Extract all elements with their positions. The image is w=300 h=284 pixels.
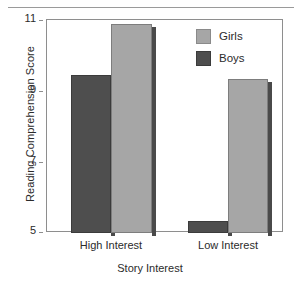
y-tick-label-5: 5 <box>0 224 36 236</box>
y-axis-title: Reading Comprehension Score <box>24 14 36 234</box>
y-tick-label-9: 9 <box>0 83 36 95</box>
boys-swatch-icon <box>196 51 211 66</box>
y-tick-label-11: 11 <box>0 12 36 24</box>
bar-high-interest-boys <box>71 75 111 233</box>
x-tick-label-low-interest: Low Interest <box>198 239 258 251</box>
y-tick-mark-5 <box>39 232 43 233</box>
legend-label-girls: Girls <box>219 29 243 44</box>
y-tick-mark-9 <box>39 91 43 92</box>
plot-area: 11 9 7 5 <box>46 19 283 232</box>
bar-body <box>228 79 268 233</box>
top-horizontal-rule <box>8 7 294 8</box>
bar-shadow <box>268 82 272 236</box>
bar-body <box>111 24 152 233</box>
legend-item-girls: Girls <box>196 29 278 44</box>
x-axis-title: Story Interest <box>0 262 300 274</box>
bar-shadow <box>152 27 156 236</box>
girls-swatch-icon <box>196 29 211 44</box>
legend-item-boys: Boys <box>196 51 278 66</box>
bar-high-interest-girls <box>111 24 152 233</box>
y-tick-mark-11 <box>39 20 43 21</box>
legend: Girls Boys <box>196 29 278 73</box>
legend-label-boys: Boys <box>219 51 245 66</box>
bar-chart-figure: Reading Comprehension Score 11 9 7 5 <box>0 0 300 284</box>
bar-body <box>188 221 228 233</box>
bar-low-interest-girls <box>228 79 268 233</box>
y-tick-label-7: 7 <box>0 154 36 166</box>
y-tick-mark-7 <box>39 162 43 163</box>
x-tick-label-high-interest: High Interest <box>80 239 142 251</box>
bar-low-interest-boys <box>188 221 228 233</box>
bar-body <box>71 75 111 233</box>
